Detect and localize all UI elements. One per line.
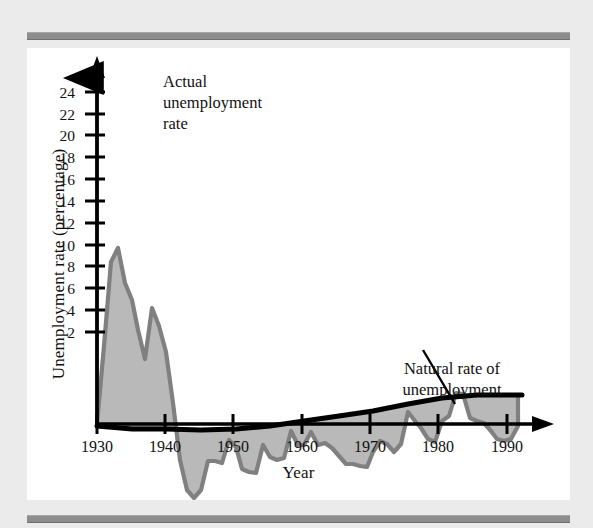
xtick-label-1970: 1970 bbox=[340, 438, 400, 456]
bottom-rule-bar bbox=[27, 515, 570, 523]
xtick-label-1930: 1930 bbox=[67, 438, 127, 456]
annotation-actual-unemployment-rate: Actual unemployment rate bbox=[163, 71, 323, 134]
annotation-actual-line-3: rate bbox=[163, 113, 323, 134]
y-axis-title: Unemployment rate (percentage) bbox=[49, 64, 69, 464]
annotation-actual-line-2: unemployment bbox=[163, 92, 323, 113]
figure-root: 24 22 20 18 16 14 12 10 8 6 4 2 1930 194… bbox=[0, 0, 593, 528]
xtick-label-1940: 1940 bbox=[135, 438, 195, 456]
y-axis-ticks bbox=[85, 92, 105, 332]
annotation-actual-line-1: Actual bbox=[163, 71, 323, 92]
xtick-label-1950: 1950 bbox=[203, 438, 263, 456]
xtick-label-1980: 1980 bbox=[408, 438, 468, 456]
annotation-natural-line-1: Natural rate of bbox=[337, 358, 567, 379]
x-axis-title: Year bbox=[27, 463, 570, 483]
xtick-label-1960: 1960 bbox=[272, 438, 332, 456]
annotation-natural-rate-of-unemployment: Natural rate of unemployment bbox=[337, 358, 567, 400]
chart-panel: 24 22 20 18 16 14 12 10 8 6 4 2 1930 194… bbox=[27, 48, 570, 500]
annotation-natural-line-2: unemployment bbox=[337, 379, 567, 400]
xtick-label-1990: 1990 bbox=[477, 438, 537, 456]
top-rule-bar bbox=[27, 32, 570, 40]
